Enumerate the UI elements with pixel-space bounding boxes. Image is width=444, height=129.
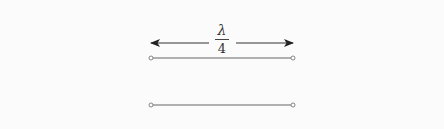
- lower-line: [149, 103, 295, 107]
- terminal-circle: [291, 103, 295, 107]
- quarter-wavelength-label: λ 4: [212, 22, 232, 56]
- fraction-numerator: λ: [212, 22, 232, 38]
- diagram-canvas: λ 4: [0, 0, 444, 129]
- terminal-circle: [149, 103, 153, 107]
- fraction-bar: [215, 39, 229, 40]
- terminal-circle: [149, 56, 153, 60]
- diagram-svg: [0, 0, 444, 129]
- fraction-denominator: 4: [212, 41, 232, 56]
- upper-line: [149, 56, 295, 60]
- terminal-circle: [291, 56, 295, 60]
